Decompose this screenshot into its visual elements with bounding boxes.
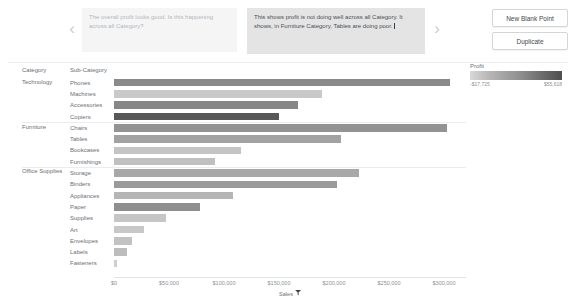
category-label[interactable]: Furniture — [22, 122, 70, 133]
chart-row[interactable]: Copiers — [8, 111, 468, 122]
bar-art[interactable] — [114, 226, 144, 234]
x-tick-label: $0 — [111, 280, 117, 286]
subcategory-label[interactable]: Bookcases — [70, 145, 114, 156]
bar-track — [114, 201, 466, 212]
duplicate-button[interactable]: Duplicate — [492, 32, 568, 50]
bar-track — [114, 111, 466, 122]
story-point-1-caption: The overall profit looks good. Is this h… — [89, 14, 213, 29]
chart-row[interactable]: TechnologyPhones — [8, 77, 468, 88]
chart-row[interactable]: Labels — [8, 247, 468, 258]
subcategory-label[interactable]: Furnishings — [70, 156, 114, 167]
x-tick-label: $100,000 — [213, 280, 236, 286]
legend-scale-labels: -$17,725 $55,618 — [470, 80, 562, 89]
bar-track — [114, 224, 466, 235]
chart-row[interactable]: Art — [8, 224, 468, 235]
bar-track — [114, 167, 466, 178]
subcategory-label[interactable]: Supplies — [70, 213, 114, 224]
x-axis-title[interactable]: Sales — [279, 290, 301, 297]
story-point-2-caption: This shows profit is not doing well acro… — [254, 14, 403, 29]
subcategory-label[interactable]: Envelopes — [70, 235, 114, 246]
chart-rows: TechnologyPhonesMachinesAccessoriesCopie… — [8, 77, 468, 269]
bar-appliances[interactable] — [114, 192, 233, 200]
bar-labels[interactable] — [114, 248, 127, 256]
bar-track — [114, 100, 466, 111]
bar-storage[interactable] — [114, 169, 359, 177]
bar-binders[interactable] — [114, 181, 337, 189]
legend-max-label: $55,618 — [544, 81, 562, 87]
subcategory-label[interactable]: Tables — [70, 134, 114, 145]
bar-chart: TechnologyPhonesMachinesAccessoriesCopie… — [8, 77, 468, 277]
subcategory-label[interactable]: Chairs — [70, 122, 114, 133]
subcategory-label[interactable]: Machines — [70, 88, 114, 99]
chart-row[interactable]: Bookcases — [8, 145, 468, 156]
legend-title: Profit — [470, 63, 568, 69]
x-axis-title-label: Sales — [279, 291, 293, 297]
bar-paper[interactable] — [114, 203, 200, 211]
axis-line — [114, 277, 466, 278]
chart-row[interactable]: Binders — [8, 179, 468, 190]
chevron-left-icon[interactable]: ‹ — [62, 0, 82, 56]
sort-descending-icon[interactable] — [295, 290, 301, 297]
x-tick-label: $200,000 — [323, 280, 346, 286]
chart-row[interactable]: Envelopes — [8, 235, 468, 246]
subcategory-label[interactable]: Phones — [70, 77, 114, 88]
subcategory-label[interactable]: Art — [70, 224, 114, 235]
bar-copiers[interactable] — [114, 113, 279, 121]
bar-phones[interactable] — [114, 79, 450, 87]
story-point-2[interactable]: This shows profit is not doing well acro… — [247, 8, 425, 54]
legend-min-label: -$17,725 — [470, 81, 490, 87]
column-header-subcategory: Sub-Category — [70, 67, 107, 73]
bar-supplies[interactable] — [114, 214, 166, 222]
bar-track — [114, 190, 466, 201]
x-tick-label: $150,000 — [268, 280, 291, 286]
chart-row[interactable]: Furnishings — [8, 156, 468, 167]
subcategory-label[interactable]: Copiers — [70, 111, 114, 122]
subcategory-label[interactable]: Accessories — [70, 100, 114, 111]
subcategory-label[interactable]: Fasteners — [70, 258, 114, 269]
bar-envelopes[interactable] — [114, 237, 132, 245]
chart-row[interactable]: Appliances — [8, 190, 468, 201]
x-tick-label: $50,000 — [159, 280, 179, 286]
subcategory-label[interactable]: Storage — [70, 167, 114, 178]
bar-chairs[interactable] — [114, 124, 447, 132]
chart-row[interactable]: Fasteners — [8, 258, 468, 269]
chart-row[interactable]: Office SuppliesStorage — [8, 167, 468, 178]
profit-color-legend: Profit -$17,725 $55,618 — [470, 63, 568, 89]
bar-track — [114, 179, 466, 190]
bar-track — [114, 145, 466, 156]
story-point-1[interactable]: The overall profit looks good. Is this h… — [82, 8, 237, 52]
bar-track — [114, 77, 466, 88]
subcategory-label[interactable]: Appliances — [70, 190, 114, 201]
chart-row[interactable]: Machines — [8, 88, 468, 99]
bar-fasteners[interactable] — [114, 260, 117, 268]
bar-track — [114, 122, 466, 133]
chart-row[interactable]: FurnitureChairs — [8, 122, 468, 133]
subcategory-label[interactable]: Labels — [70, 247, 114, 258]
bar-tables[interactable] — [114, 135, 341, 143]
legend-gradient-ramp[interactable] — [470, 71, 562, 80]
bar-bookcases[interactable] — [114, 147, 241, 155]
bar-track — [114, 134, 466, 145]
bar-track — [114, 213, 466, 224]
chart-row[interactable]: Accessories — [8, 100, 468, 111]
subcategory-label[interactable]: Binders — [70, 179, 114, 190]
x-axis: $0$50,000$100,000$150,000$200,000$250,00… — [114, 277, 466, 302]
subcategory-label[interactable]: Paper — [70, 201, 114, 212]
bar-track — [114, 88, 466, 99]
bar-track — [114, 235, 466, 246]
tableau-story-view: ‹ The overall profit looks good. Is this… — [0, 0, 576, 302]
bar-accessories[interactable] — [114, 101, 298, 109]
bar-machines[interactable] — [114, 90, 322, 98]
chart-row[interactable]: Supplies — [8, 213, 468, 224]
chart-row[interactable]: Paper — [8, 201, 468, 212]
worksheet: Category Sub-Category Profit -$17,725 $5… — [8, 62, 568, 297]
chevron-right-icon[interactable]: › — [427, 0, 447, 56]
bar-furnishings[interactable] — [114, 158, 215, 166]
new-blank-point-button[interactable]: New Blank Point — [492, 9, 568, 27]
story-actions: New Blank Point Duplicate — [492, 9, 568, 50]
chart-row[interactable]: Tables — [8, 134, 468, 145]
category-label[interactable]: Technology — [22, 77, 70, 88]
x-tick-label: $300,000 — [433, 280, 456, 286]
bar-track — [114, 258, 466, 269]
x-tick-label: $250,000 — [378, 280, 401, 286]
